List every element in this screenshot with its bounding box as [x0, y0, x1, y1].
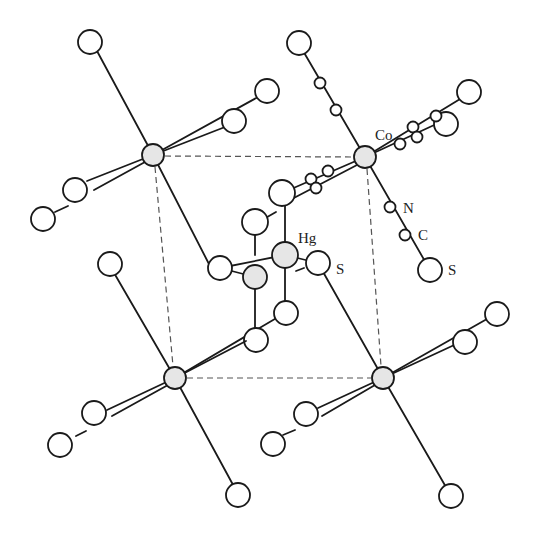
s-atom	[453, 330, 477, 354]
s-atom	[226, 483, 250, 507]
hg-center-group	[175, 180, 383, 378]
n-atom	[323, 166, 334, 177]
hg-atom	[243, 265, 267, 289]
s-atom	[208, 256, 232, 280]
n-atom	[412, 132, 423, 143]
s-atom	[306, 251, 330, 275]
s-atom	[98, 252, 122, 276]
label-s-terminal: S	[448, 262, 456, 278]
co-atom	[164, 367, 186, 389]
label-co: Co	[375, 127, 393, 143]
s-atom	[439, 484, 463, 508]
s-atom	[63, 178, 87, 202]
co-atom	[142, 144, 164, 166]
co-bottom-right-group	[261, 302, 509, 508]
s-atom	[244, 328, 268, 352]
s-atom	[222, 109, 246, 133]
co-atom	[372, 367, 394, 389]
s-atom	[82, 401, 106, 425]
s-atom	[294, 402, 318, 426]
s-atom	[31, 207, 55, 231]
s-atom	[418, 258, 442, 282]
s-atom	[261, 432, 285, 456]
n-atom	[385, 202, 396, 213]
s-atom	[269, 180, 295, 206]
s-atom	[274, 301, 298, 325]
co-atom	[354, 146, 376, 168]
hg-atom	[272, 242, 298, 268]
label-c: C	[418, 227, 428, 243]
c-atom	[315, 78, 326, 89]
c-atom	[311, 183, 322, 194]
s-atom	[78, 30, 102, 54]
co-bottom-left-group	[48, 252, 250, 507]
s-atom	[287, 31, 311, 55]
n-atom	[395, 139, 406, 150]
s-atom	[242, 209, 268, 235]
co-top-left-group	[31, 30, 279, 266]
n-atom	[331, 105, 342, 116]
s-atom	[457, 80, 481, 104]
label-n: N	[403, 200, 414, 216]
c-atom	[400, 230, 411, 241]
crystal-structure-diagram: Co Hg S N C S	[0, 0, 536, 533]
label-s-near-hg: S	[336, 261, 344, 277]
s-atom	[485, 302, 509, 326]
s-atom	[255, 79, 279, 103]
c-atom	[431, 111, 442, 122]
s-atom	[48, 433, 72, 457]
label-hg: Hg	[298, 230, 317, 246]
